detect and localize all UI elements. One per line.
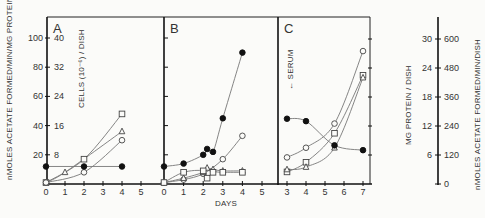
- marker-B-open-square: [200, 168, 206, 174]
- x-tick-label: 4: [240, 187, 245, 197]
- x-tick-label: 7: [360, 187, 365, 197]
- acetate-tick-label: 360: [444, 92, 459, 102]
- curve-C-open-circle: [287, 51, 363, 157]
- marker-A-filled-circle: [43, 164, 49, 170]
- panel-c-label: C: [284, 21, 293, 36]
- figure: 0123450123453456720840166024803210040612…: [0, 0, 485, 218]
- marker-C-open-square: [332, 130, 338, 136]
- acetate-tick-label: 480: [444, 63, 459, 73]
- x-tick-label: 3: [284, 187, 289, 197]
- x-tick-label: 1: [62, 187, 67, 197]
- marker-B-open-square: [210, 170, 216, 176]
- x-tick-label: 0: [43, 187, 48, 197]
- marker-B-open-square: [240, 170, 246, 176]
- marker-B-filled-circle: [200, 152, 206, 158]
- marker-C-open-circle: [284, 155, 290, 161]
- marker-B-open-square: [161, 180, 167, 186]
- marker-C-open-circle: [332, 121, 338, 127]
- x-tick-label: 3: [220, 187, 225, 197]
- marker-C-filled-circle: [284, 116, 290, 122]
- x-tick-label: 2: [201, 187, 206, 197]
- marker-B-filled-circle: [181, 161, 187, 167]
- marker-B-filled-circle: [204, 146, 210, 152]
- panel-a-label: A: [53, 21, 62, 36]
- curve-B-filled-circle: [164, 53, 242, 167]
- cells-axis-label: CELLS (10⁻⁶) / DISH: [77, 29, 86, 108]
- protein-tick-label: 12: [422, 121, 432, 131]
- x-tick-label: 4: [119, 187, 124, 197]
- x-axis-label: DAYS: [215, 199, 237, 208]
- marker-A-open-square: [119, 111, 125, 117]
- cells-tick-label: 32: [54, 62, 64, 72]
- marker-B-filled-circle: [161, 164, 167, 170]
- marker-B-filled-circle: [210, 149, 216, 155]
- x-tick-label: 0: [161, 187, 166, 197]
- protein-tick-label: 18: [422, 92, 432, 102]
- x-tick-label: 5: [322, 187, 327, 197]
- marker-A-open-square: [81, 156, 87, 162]
- marker-B-open-circle: [220, 156, 226, 162]
- curve-C-open-triangle: [287, 78, 363, 170]
- acetate-tick-label: 600: [444, 34, 459, 44]
- protein-tick-label: 6: [427, 150, 432, 160]
- marker-A-filled-circle: [119, 164, 125, 170]
- marker-C-filled-circle: [303, 118, 309, 124]
- marker-B-open-square: [220, 170, 226, 176]
- marker-A-filled-circle: [81, 164, 87, 170]
- marker-B-filled-circle: [240, 50, 246, 56]
- marker-A-open-circle: [81, 170, 87, 176]
- markers: [43, 48, 366, 185]
- marker-C-filled-circle: [332, 143, 338, 149]
- cells-tick-label: 8: [54, 150, 59, 160]
- marker-A-open-triangle: [62, 169, 68, 175]
- y-tick-label: 20: [33, 150, 43, 160]
- marker-A-open-circle: [43, 180, 49, 186]
- marker-C-filled-circle: [360, 147, 366, 153]
- curves: [46, 51, 363, 182]
- curve-C-open-square: [287, 75, 363, 172]
- acetate-tick-label: 240: [444, 121, 459, 131]
- y-tick-label: 60: [33, 91, 43, 101]
- protein-tick-label: 24: [422, 63, 432, 73]
- marker-B-filled-circle: [220, 116, 226, 122]
- y-tick-label: 80: [33, 62, 43, 72]
- marker-B-open-square: [204, 175, 210, 181]
- marker-A-open-circle: [119, 137, 125, 143]
- y-tick-label: 100: [28, 33, 43, 43]
- acetate-tick-label: 0: [444, 179, 449, 189]
- protein-tick-label: 30: [422, 34, 432, 44]
- left-axis-label: nMOLES ACETATE FORMED/MIN/MG PROTEIN: [5, 0, 14, 180]
- panel-b-label: B: [170, 21, 179, 36]
- cells-tick-label: 16: [54, 121, 64, 131]
- x-tick-label: 4: [303, 187, 308, 197]
- protein-axis-label: MG PROTEIN / DISH: [404, 65, 413, 145]
- serum-annotation: ← SERUM: [286, 49, 295, 90]
- right-axis-label: nMOLES ACETATE FORMED/MIN/DISH: [473, 39, 482, 190]
- x-tick-label: 2: [81, 187, 86, 197]
- marker-B-open-square: [181, 170, 187, 176]
- x-tick-label: 5: [259, 187, 264, 197]
- y-tick-label: 40: [33, 121, 43, 131]
- x-tick-label: 5: [138, 187, 143, 197]
- marker-A-open-triangle: [119, 128, 125, 134]
- marker-C-open-circle: [360, 48, 366, 54]
- marker-B-open-circle: [240, 133, 246, 139]
- acetate-tick-label: 120: [444, 150, 459, 160]
- x-tick-label: 3: [100, 187, 105, 197]
- x-tick-label: 6: [341, 187, 346, 197]
- marker-C-open-circle: [303, 145, 309, 151]
- x-tick-label: 1: [181, 187, 186, 197]
- cells-tick-label: 24: [54, 91, 64, 101]
